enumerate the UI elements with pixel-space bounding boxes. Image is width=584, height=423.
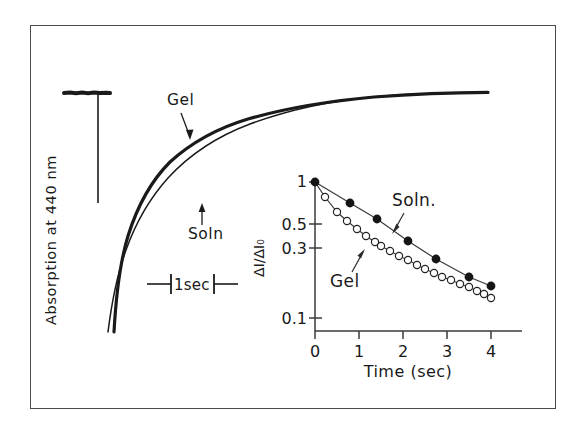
- baseline-trace: [64, 92, 110, 93]
- inset-xtick-label-2: 2: [398, 342, 408, 361]
- data-point: [404, 237, 413, 246]
- figure-root: Absorption at 440 nm Gel Soln 1sec: [0, 0, 584, 423]
- data-point: [421, 265, 428, 272]
- data-point: [465, 273, 474, 282]
- figure-canvas: Absorption at 440 nm Gel Soln 1sec: [0, 0, 584, 423]
- gel-label: Gel: [167, 91, 194, 109]
- inset-gel-arrowhead-icon: [358, 249, 366, 259]
- gel-trace: [114, 92, 488, 332]
- data-point: [465, 283, 472, 290]
- inset-ytick-label-03: 0.3: [282, 239, 307, 258]
- inset-xtick-label-3: 3: [442, 342, 452, 361]
- soln-arrowhead-icon: [199, 203, 206, 212]
- data-point: [487, 294, 494, 301]
- data-point: [456, 280, 463, 287]
- data-point: [413, 261, 420, 268]
- inset-ylabel: ΔI/ΔI₀: [251, 239, 267, 277]
- data-point: [487, 282, 496, 291]
- inset-xtick-label-0: 0: [310, 342, 320, 361]
- data-point: [346, 199, 355, 208]
- data-point: [362, 232, 369, 239]
- data-point: [321, 193, 328, 200]
- gel-arrowhead-icon: [186, 130, 194, 141]
- data-point: [343, 217, 350, 224]
- soln-trace: [108, 92, 488, 332]
- time-scale-bar: 1sec: [147, 274, 238, 294]
- inset-xtick-label-1: 1: [354, 342, 364, 361]
- data-point: [480, 290, 487, 297]
- inset-ytick-label-01: 0.1: [282, 309, 307, 328]
- data-point: [386, 247, 393, 254]
- inset-x-ticks: [315, 331, 491, 339]
- data-point: [395, 252, 402, 259]
- inset-ytick-label-05: 0.5: [282, 215, 307, 234]
- data-point: [473, 287, 480, 294]
- inset-ytick-label-1: 1: [297, 172, 307, 191]
- data-point: [377, 242, 384, 249]
- inset-plot: 1 0.5 0.3 0.1 ΔI/ΔI₀ 0 1 2 3 4 Time (sec…: [251, 172, 522, 381]
- soln-label: Soln: [188, 225, 223, 243]
- inset-xlabel: Time (sec): [363, 362, 453, 381]
- data-point: [333, 208, 340, 215]
- inset-gel-label: Gel: [330, 271, 360, 291]
- inset-xtick-label-4: 4: [486, 342, 496, 361]
- main-plot: Absorption at 440 nm Gel Soln 1sec: [43, 91, 488, 332]
- inset-soln-label: Soln.: [392, 190, 436, 210]
- data-point: [438, 273, 445, 280]
- data-point: [311, 178, 320, 187]
- data-point: [404, 256, 411, 263]
- data-point: [447, 276, 454, 283]
- main-ylabel: Absorption at 440 nm: [43, 155, 59, 325]
- data-point: [432, 255, 441, 264]
- data-point: [430, 269, 437, 276]
- scalebar-label: 1sec: [174, 276, 210, 294]
- data-point: [373, 215, 382, 224]
- data-point: [353, 225, 360, 232]
